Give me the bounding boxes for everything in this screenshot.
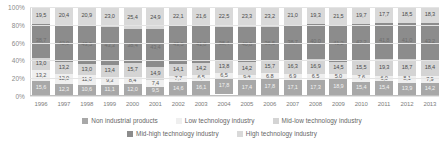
bar-segment-value: 17,7	[379, 12, 390, 18]
bar-column[interactable]: 22,538,413,86,517,8	[215, 7, 233, 95]
bar-column[interactable]: 25,438,415,78,412,0	[124, 7, 142, 95]
bar-column[interactable]: 21,541,214,55,018,9	[329, 7, 347, 95]
bar-segment[interactable]: 19,5	[32, 7, 50, 24]
bar-segment-value: 14,5	[333, 65, 344, 71]
bar-segment[interactable]: 17,8	[261, 79, 279, 95]
bar-segment[interactable]: 25,4	[124, 7, 142, 29]
bar-segment[interactable]: 15,5	[352, 61, 370, 75]
bar-segment[interactable]: 15,4	[352, 82, 370, 96]
bar-segment[interactable]: 21,6	[192, 7, 210, 26]
bar-segment[interactable]: 17,1	[284, 80, 302, 95]
bar-column[interactable]: 23,236,515,76,817,8	[261, 7, 279, 95]
bar-segment[interactable]: 14,6	[169, 82, 187, 95]
bar-segment[interactable]: 14,2	[421, 83, 439, 95]
bar-segment[interactable]: 14,2	[192, 63, 210, 75]
bar-segment-value: 19,5	[36, 13, 47, 19]
bar-column[interactable]: 20,442,013,212,012,3	[55, 7, 73, 95]
bar-segment[interactable]: 13,0	[78, 64, 96, 75]
bar-segment[interactable]: 18,4	[421, 60, 439, 76]
bar-column[interactable]: 18,541,018,78,113,9	[398, 7, 416, 95]
bar-segment[interactable]: 10,6	[78, 85, 96, 94]
bar-segment[interactable]: 17,7	[375, 7, 393, 23]
bar-segment[interactable]: 43,2	[421, 23, 439, 60]
bar-segment[interactable]: 16,1	[192, 81, 210, 95]
bar-segment[interactable]: 13,4	[101, 65, 119, 77]
bar-segment[interactable]: 18,9	[329, 79, 347, 95]
bar-column[interactable]: 18,343,218,47,914,2	[421, 7, 439, 95]
bar-segment[interactable]: 15,6	[32, 81, 50, 95]
bar-segment[interactable]: 14,5	[329, 62, 347, 75]
bar-segment[interactable]: 41,2	[329, 26, 347, 62]
bar-segment[interactable]: 43,5	[78, 25, 96, 63]
bar-segment[interactable]: 13,2	[55, 62, 73, 74]
bar-segment[interactable]: 18,5	[398, 7, 416, 23]
bar-segment[interactable]: 12,0	[124, 84, 142, 95]
bar-column[interactable]: 22,143,514,17,714,6	[169, 7, 187, 95]
legend-item[interactable]: Mid-high technology industry	[127, 130, 219, 137]
bar-segment[interactable]: 17,3	[307, 80, 325, 95]
bar-segment[interactable]: 12,3	[55, 84, 73, 95]
bar-segment[interactable]: 19,3	[307, 7, 325, 24]
bar-segment[interactable]: 41,0	[398, 23, 416, 59]
bar-segment-value: 10,6	[82, 87, 93, 93]
bar-segment[interactable]: 41,8	[192, 26, 210, 63]
bar-segment[interactable]: 38,4	[215, 27, 233, 61]
bar-segment[interactable]: 9,5	[146, 87, 164, 95]
bar-segment[interactable]: 41,8	[375, 23, 393, 60]
x-axis-tick-label: 1997	[55, 101, 73, 107]
bar-segment[interactable]: 17,4	[238, 80, 256, 95]
bar-column[interactable]: 19,538,713,013,215,6	[32, 7, 50, 95]
bar-segment[interactable]: 8,1	[398, 76, 416, 83]
bar-column[interactable]: 17,741,819,36,015,4	[375, 7, 393, 95]
bar-column[interactable]: 23,340,814,26,417,4	[238, 7, 256, 95]
bar-segment[interactable]: 38,4	[124, 29, 142, 63]
bar-column[interactable]: 21,641,814,26,516,1	[192, 7, 210, 95]
bar-segment-value: 17,8	[265, 84, 276, 90]
bar-column[interactable]: 24,943,414,97,49,5	[146, 7, 164, 95]
bar-segment-value: 15,7	[265, 64, 276, 70]
bar-segment[interactable]: 21,5	[329, 7, 347, 26]
bar-column[interactable]: 23,043,313,49,311,1	[101, 7, 119, 95]
bar-segment[interactable]: 11,1	[101, 85, 119, 95]
bar-segment[interactable]: 43,5	[169, 26, 187, 64]
bar-segment-value: 43,4	[150, 45, 161, 51]
bar-segment[interactable]: 15,7	[124, 63, 142, 77]
bar-segment-value: 17,1	[287, 85, 298, 91]
bar-segment[interactable]: 11,6	[78, 75, 96, 85]
bar-segment[interactable]: 20,9	[78, 7, 96, 25]
bar-segment[interactable]: 18,7	[398, 59, 416, 75]
bar-segment[interactable]: 7,9	[421, 76, 439, 83]
bar-segment-value: 17,8	[219, 83, 230, 89]
bar-segment[interactable]: 13,9	[398, 83, 416, 95]
bar-segment[interactable]: 20,4	[55, 7, 73, 25]
bar-segment[interactable]: 14,1	[169, 64, 187, 76]
bar-segment[interactable]: 15,4	[375, 81, 393, 95]
legend-item[interactable]: High technology industry	[237, 130, 317, 137]
bar-segment[interactable]: 40,0	[307, 24, 325, 59]
bar-segment[interactable]: 22,1	[169, 7, 187, 26]
x-axis-tick-label: 2009	[329, 101, 347, 107]
bar-column[interactable]: 20,943,513,011,610,6	[78, 7, 96, 95]
stacked-bar-chart: 100%80%60%40%20%0% 19,538,713,013,215,62…	[0, 0, 444, 158]
bar-segment[interactable]: 21,0	[284, 7, 302, 25]
legend-item[interactable]: Low technology industry	[176, 117, 255, 124]
gridline	[30, 43, 439, 44]
bar-segment[interactable]: 19,7	[352, 7, 370, 24]
bar-segment-value: 38,4	[127, 43, 138, 49]
legend-row-2: Mid-high technology industryHigh technol…	[0, 127, 444, 140]
bar-segment[interactable]: 38,7	[32, 24, 50, 58]
bar-segment[interactable]: 15,7	[261, 60, 279, 74]
bar-segment[interactable]: 14,2	[238, 62, 256, 74]
legend-item[interactable]: Mid-low technology industry	[273, 117, 362, 124]
bar-segment[interactable]: 13,2	[32, 70, 50, 82]
bar-column[interactable]: 21,038,716,36,917,1	[284, 7, 302, 95]
bar-column[interactable]: 19,340,016,96,517,3	[307, 7, 325, 95]
bar-segment[interactable]: 19,3	[375, 59, 393, 76]
bar-segment[interactable]: 18,3	[421, 7, 439, 23]
bar-segment[interactable]: 16,3	[284, 60, 302, 74]
bar-column[interactable]: 19,742,215,57,615,4	[352, 7, 370, 95]
bar-segment[interactable]: 13,8	[215, 61, 233, 73]
legend-item[interactable]: Non industrial products	[82, 117, 158, 124]
bar-segment[interactable]: 17,8	[215, 78, 233, 94]
bar-segment[interactable]: 40,8	[238, 27, 256, 62]
